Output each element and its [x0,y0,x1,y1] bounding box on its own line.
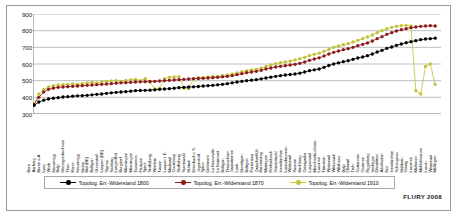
data-point [289,73,292,76]
data-point [322,54,325,57]
data-point [347,59,350,62]
data-point [371,52,374,55]
data-point [211,84,214,87]
data-point [158,88,161,91]
data-point [168,76,171,79]
data-point [284,64,287,67]
data-point [81,94,84,97]
data-point [434,24,437,27]
data-point [163,79,166,82]
data-point [144,77,147,80]
data-point [429,37,432,40]
data-point [400,28,403,31]
data-point [71,85,74,88]
data-point [400,24,403,27]
data-point [322,66,325,69]
data-point [202,84,205,87]
data-point [187,77,190,80]
data-point [279,74,282,77]
data-point [356,56,359,59]
data-point [119,90,122,93]
data-point [274,75,277,78]
data-point [110,91,113,94]
chart-canvas [33,14,441,114]
data-point [192,85,195,88]
y-tick-label: 400 [8,94,32,101]
data-point [313,53,316,56]
data-point [376,31,379,34]
data-point [66,85,69,88]
data-point [274,62,277,65]
data-point [274,65,277,68]
data-point [66,95,69,98]
data-point [197,77,200,80]
data-point [318,67,321,70]
data-point [37,96,40,99]
data-point [366,54,369,57]
data-point [356,39,359,42]
data-point [347,42,350,45]
legend-item-0: Topolog. Err.-Widerstand 1800 [60,179,148,186]
data-point [308,59,311,62]
data-point [289,59,292,62]
data-point [395,29,398,32]
attribution-label: FLURY 2008 [403,193,442,201]
data-point [231,81,234,84]
data-point [260,69,263,72]
data-point [424,37,427,40]
data-point [187,85,190,88]
chart-figure: 300400500600700800900 BernAarbergBüren a… [0,0,458,218]
data-point [303,70,306,73]
legend-label: Topolog. Err.-Widerstand 1800 [78,180,148,186]
data-point [202,77,205,80]
data-point [71,95,74,98]
y-tick-label: 800 [8,27,32,34]
data-point [327,64,330,67]
data-point [284,60,287,63]
data-point [318,52,321,55]
data-point [153,88,156,91]
data-point [380,29,383,32]
data-point [424,24,427,27]
data-point [400,42,403,45]
data-point [405,41,408,44]
data-point [177,75,180,78]
data-point [419,92,422,95]
data-point [284,73,287,76]
data-point [245,71,248,74]
x-tick-label: Müllingen [434,156,439,173]
data-point [245,79,248,82]
data-point [414,39,417,42]
data-point [250,70,253,73]
data-point [269,66,272,69]
data-point [52,97,55,100]
data-point [221,75,224,78]
data-point [95,83,98,86]
data-point [47,88,50,91]
data-point [52,87,55,90]
x-axis: BernAarbergBüren a.A.LyssWorbNeueneggBel… [33,115,443,173]
data-point [81,84,84,87]
data-point [395,44,398,47]
data-point [216,76,219,79]
chart-legend: Topolog. Err.-Widerstand 1800Topolog. Er… [44,176,395,189]
data-point [327,48,330,51]
data-point [129,81,132,84]
series-2 [33,24,437,106]
data-point [327,52,330,55]
data-point [134,89,137,92]
data-point [173,87,176,90]
data-point [390,45,393,48]
data-point [57,86,60,89]
data-point [366,41,369,44]
data-point [332,46,335,49]
data-point [95,93,98,96]
data-point [313,68,316,71]
data-point [129,90,132,93]
data-point [105,92,108,95]
data-point [264,76,267,79]
legend-item-1: Topolog. Err.-Widerstand 1870 [175,179,263,186]
plot-area [33,14,441,114]
y-tick-label: 900 [8,11,32,18]
data-point [342,43,345,46]
